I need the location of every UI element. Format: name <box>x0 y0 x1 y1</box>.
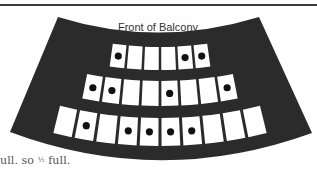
seat <box>180 79 198 105</box>
seat <box>122 79 140 105</box>
occupied-seat-dot <box>108 87 115 94</box>
occupied-seat-dot <box>224 84 231 91</box>
balcony-shape <box>10 17 312 160</box>
caption-fraction: ½ <box>38 156 45 164</box>
balcony-seating-diagram: Front of Balcony <box>0 0 317 169</box>
seat <box>142 81 159 106</box>
caption: ull. so ½ full. <box>0 154 70 167</box>
occupied-seat-dot <box>198 52 205 59</box>
seat <box>127 46 143 70</box>
caption-suffix: full. <box>45 154 71 167</box>
occupied-seat-dot <box>146 128 153 135</box>
occupied-seat-dot <box>83 122 90 129</box>
occupied-seat-dot <box>166 90 173 97</box>
seat <box>144 47 159 70</box>
occupied-seat-dot <box>167 128 174 135</box>
occupied-seat-dot <box>125 127 132 134</box>
caption-prefix: ull. so <box>0 154 38 167</box>
seat <box>161 47 176 70</box>
occupied-seat-dot <box>181 54 188 61</box>
occupied-seat-dot <box>115 52 122 59</box>
balcony-title: Front of Balcony <box>118 21 199 33</box>
occupied-seat-dot <box>89 84 96 91</box>
occupied-seat-dot <box>188 127 195 134</box>
